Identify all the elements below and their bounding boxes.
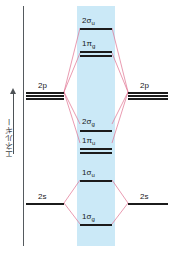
molecular-level-1pi-u: [80, 152, 112, 154]
atomic-level-left-2p: [26, 92, 64, 94]
molecular-level-2sigma-g: [80, 130, 112, 132]
atomic-level-left-2s-label: 2s: [38, 192, 46, 201]
atomic-level-right-2p: [128, 98, 168, 100]
molecular-level-1pi-g-label-sub: g: [92, 43, 95, 49]
atomic-level-left-2s: [26, 203, 64, 205]
atomic-level-right-2s: [128, 203, 168, 205]
molecular-level-1pi-u-label-text: 1π: [82, 136, 92, 145]
molecular-level-2sigma-u-label-sub: u: [91, 20, 94, 26]
atomic-level-right-2p: [128, 95, 168, 97]
molecular-level-1pi-g-label-text: 1π: [82, 39, 92, 48]
molecular-level-1sigma-g-label-sub: g: [91, 216, 94, 222]
molecular-level-1sigma-g-label-text: 1σ: [82, 212, 91, 221]
energy-axis-label: エネルギー: [5, 118, 19, 158]
energy-axis-line: [23, 6, 24, 246]
molecular-level-1pi-u-label-sub: u: [92, 140, 95, 146]
molecular-level-1pi-g: [80, 51, 112, 53]
molecular-level-2sigma-g-label-text: 2σ: [82, 117, 91, 126]
molecular-level-2sigma-u-label-text: 2σ: [82, 16, 91, 25]
molecular-level-1pi-u: [80, 148, 112, 150]
atomic-level-right-2p-label: 2p: [140, 81, 149, 90]
molecular-level-1sigma-u-label-text: 1σ: [82, 168, 91, 177]
molecular-level-2sigma-u: [80, 28, 112, 30]
molecular-level-1pi-g-label: 1πg: [82, 39, 95, 48]
molecular-level-1pi-u-label: 1πu: [82, 136, 95, 145]
molecular-level-1pi-g: [80, 55, 112, 57]
atomic-level-left-2p: [26, 98, 64, 100]
atomic-level-left-2p-label: 2p: [38, 81, 47, 90]
molecular-level-1sigma-g-label: 1σg: [82, 212, 95, 221]
molecular-level-1sigma-u: [80, 180, 112, 182]
molecular-level-1sigma-u-label: 1σu: [82, 168, 95, 177]
molecular-level-2sigma-u-label: 2σu: [82, 16, 95, 25]
molecular-level-2sigma-g-label-sub: g: [91, 121, 94, 127]
mo-energy-diagram: エネルギー 2p 2s 2p 2s: [0, 0, 172, 258]
atomic-level-right-2s-label: 2s: [140, 192, 148, 201]
molecular-level-1sigma-u-label-sub: u: [91, 172, 94, 178]
atomic-level-left-2p: [26, 95, 64, 97]
molecular-level-1sigma-g: [80, 224, 112, 226]
molecular-level-2sigma-g-label: 2σg: [82, 117, 95, 126]
atomic-level-right-2p: [128, 92, 168, 94]
